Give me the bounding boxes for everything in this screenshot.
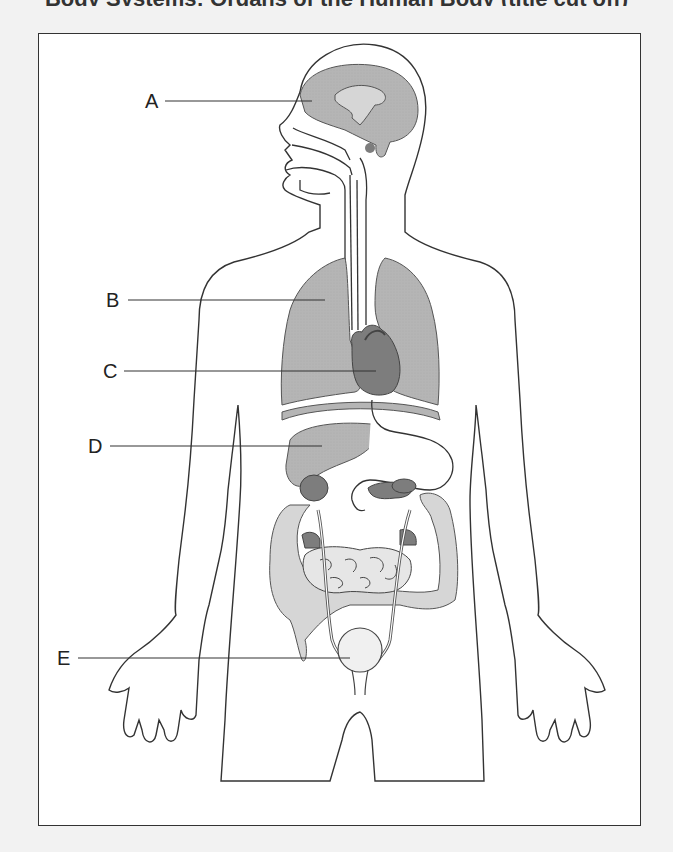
brain	[300, 64, 418, 157]
bladder	[338, 628, 382, 695]
diaphragm	[282, 402, 440, 420]
label-b: B	[106, 290, 119, 310]
label-a: A	[145, 91, 158, 111]
liver	[286, 423, 380, 486]
label-c: C	[103, 361, 117, 381]
lung-left	[281, 258, 362, 405]
human-body-diagram	[0, 0, 673, 852]
label-e: E	[57, 648, 70, 668]
label-d: D	[88, 436, 102, 456]
